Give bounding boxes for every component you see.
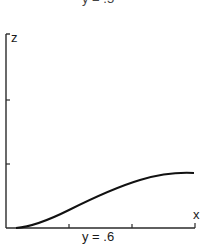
x-axis-label: x: [193, 208, 200, 221]
top-partial-label: y = .5: [82, 0, 114, 5]
chart-caption: y = .6: [82, 230, 114, 243]
data-curve: [16, 173, 194, 228]
z-axis-label: z: [11, 31, 18, 44]
chart-canvas: [0, 0, 202, 246]
